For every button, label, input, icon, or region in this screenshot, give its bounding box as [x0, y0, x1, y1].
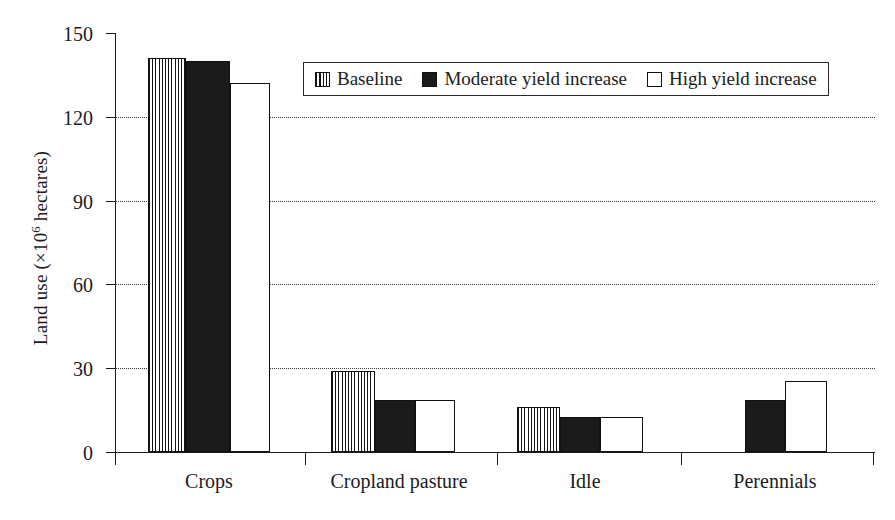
y-axis-tick-label: 0 — [83, 442, 93, 465]
x-axis-tick — [305, 452, 306, 465]
y-axis-title-suffix: hectares) — [30, 151, 51, 226]
bar-high-yield-increase — [785, 381, 827, 452]
bar-high-yield-increase — [600, 417, 643, 452]
bar-baseline — [517, 407, 560, 452]
x-axis-category-label: Idle — [569, 470, 600, 493]
bar-moderate-yield-increase — [745, 400, 785, 452]
bar-moderate-yield-increase — [375, 400, 415, 452]
y-axis-tick: 60 — [106, 284, 115, 285]
legend-item-high: High yield increase — [647, 68, 817, 90]
hatched-vertical-swatch — [315, 72, 330, 87]
y-axis-tick-label: 30 — [73, 358, 93, 381]
y-axis-title-exponent: 6 — [29, 226, 43, 232]
bar-high-yield-increase — [230, 83, 270, 452]
legend-label: Baseline — [337, 68, 402, 90]
bar-moderate-yield-increase — [560, 417, 600, 452]
x-axis-tick — [681, 452, 682, 465]
x-axis-tick — [873, 452, 874, 465]
x-axis-line — [115, 452, 875, 453]
legend-item-baseline: Baseline — [315, 68, 402, 90]
bar-baseline — [331, 371, 375, 452]
y-axis-tick: 90 — [106, 201, 115, 202]
y-axis-tick: 120 — [106, 117, 115, 118]
y-axis-tick-label: 90 — [73, 190, 93, 213]
legend-label: Moderate yield increase — [444, 68, 627, 90]
y-axis-tick: 0 — [106, 452, 115, 453]
empty-white-swatch — [647, 72, 662, 87]
y-axis-tick: 150 — [106, 33, 115, 34]
legend-item-moderate: Moderate yield increase — [422, 68, 627, 90]
y-axis-tick: 30 — [106, 368, 115, 369]
bar-baseline — [148, 58, 186, 452]
bar-chart: Land use (×106 hectares) 0306090120150 C… — [0, 0, 895, 520]
x-axis-category-label: Perennials — [733, 470, 816, 493]
y-axis-tick-label: 120 — [63, 106, 93, 129]
x-axis-category-label: Cropland pasture — [330, 470, 467, 493]
y-axis-tick-label: 60 — [73, 274, 93, 297]
bar-high-yield-increase — [415, 400, 455, 452]
y-axis-title-prefix: Land use (×10 — [30, 233, 51, 346]
chart-legend: Baseline Moderate yield increase High yi… — [303, 62, 829, 96]
y-axis-title: Land use (×106 hectares) — [30, 68, 52, 428]
legend-label: High yield increase — [669, 68, 817, 90]
y-axis-tick-label: 150 — [63, 23, 93, 46]
x-axis-tick — [115, 452, 116, 465]
x-axis-tick — [497, 452, 498, 465]
bar-moderate-yield-increase — [186, 61, 230, 452]
x-axis-category-label: Crops — [185, 470, 233, 493]
solid-black-swatch — [422, 72, 437, 87]
